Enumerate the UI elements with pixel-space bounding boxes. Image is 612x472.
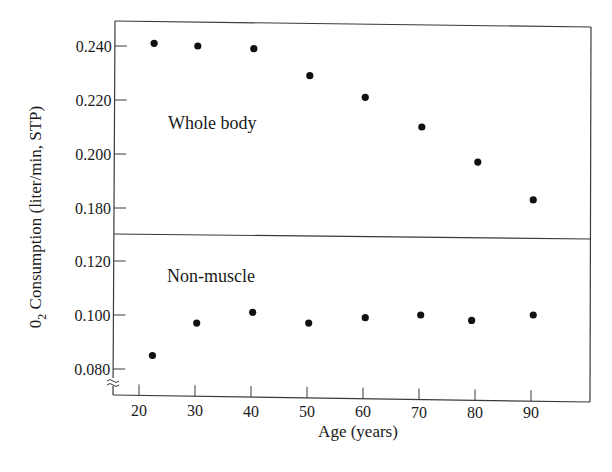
frame-right [590,27,591,402]
series-non-muscle [149,309,537,359]
data-point [194,42,201,49]
y-tick-label: 0.220 [76,92,112,109]
y-tick-label: 0.120 [75,253,111,270]
x-tick-label: 70 [411,404,427,421]
y-tick-label: 0.180 [75,200,111,217]
axis-break-icon [107,378,119,387]
panel-label-whole-body: Whole body [168,113,256,133]
data-point [306,72,313,79]
y-tick-label: 0.200 [75,146,111,163]
data-point [149,352,156,359]
y-axis-label-text: Consumption (liter/min, STP) [26,106,45,314]
data-point [305,320,312,327]
panel-label-non-muscle: Non-muscle [167,266,255,286]
x-tick-label: 60 [355,403,371,420]
data-point [468,317,475,324]
y-axis-label-prefix: 0 [26,320,45,329]
x-tick-label: 20 [131,402,147,419]
y-axis-ticks-bottom: 0.1200.1000.080 [74,253,126,378]
x-axis-label: Age (years) [318,422,398,441]
x-tick-label: 50 [299,403,315,420]
data-point [362,94,369,101]
x-tick-label: 40 [243,403,259,420]
frame-top [115,21,591,27]
y-tick-label: 0.240 [76,38,112,55]
data-point [193,320,200,327]
x-tick-label: 80 [467,404,483,421]
y-tick-label: 0.100 [74,307,110,324]
data-point [249,309,256,316]
panel-divider [114,234,591,239]
x-axis-ticks: 2030405060708090 [131,384,539,421]
data-point [151,40,158,47]
chart-figure: 0.2400.2200.2000.180 0.1200.1000.080 203… [0,0,612,472]
data-point [530,196,537,203]
x-tick-label: 90 [523,404,539,421]
y-tick-label: 0.080 [74,361,110,378]
data-point [530,311,537,318]
data-point [250,45,257,52]
plot-frame [113,21,591,402]
x-tick-label: 30 [187,402,203,419]
data-point [474,159,481,166]
data-point [418,123,425,130]
frame-bottom-x-axis [113,395,590,402]
data-point [362,314,369,321]
y-axis-label: 02 Consumption (liter/min, STP) [26,106,49,328]
y-axis-ticks-top: 0.2400.2200.2000.180 [75,38,127,217]
data-point [417,311,424,318]
